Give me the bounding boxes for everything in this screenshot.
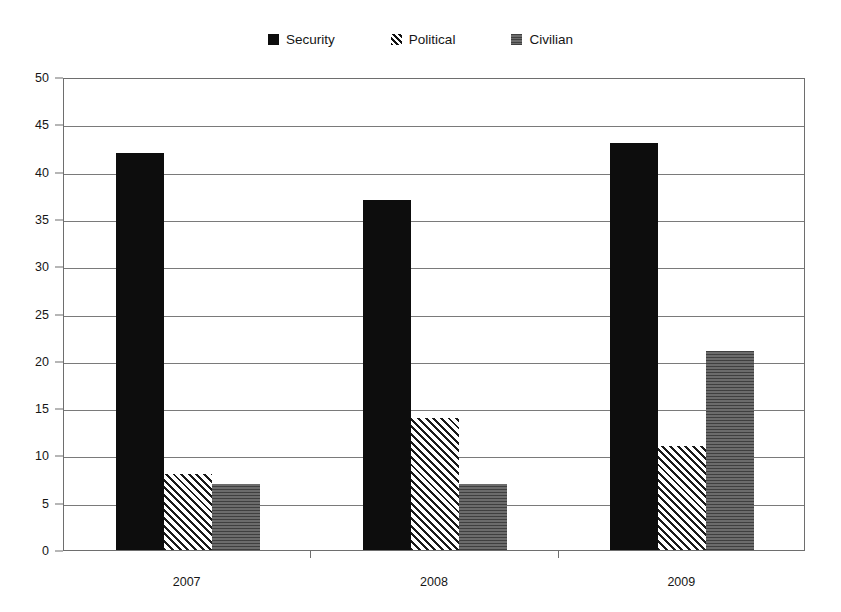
y-tick-mark <box>55 314 63 315</box>
x-tick-label-2007: 2007 <box>173 576 201 589</box>
bar-political-2007 <box>164 474 212 550</box>
y-axis: 05101520253035404550 <box>0 0 63 612</box>
y-tick-label: 40 <box>35 166 49 179</box>
y-tick-label: 35 <box>35 214 49 227</box>
bar-security-2009 <box>610 143 658 550</box>
y-tick-mark <box>55 219 63 220</box>
x-tick-label-2009: 2009 <box>667 576 695 589</box>
y-tick-mark <box>55 361 63 362</box>
legend-swatch-security-icon <box>268 34 279 45</box>
y-tick-label: 15 <box>35 403 49 416</box>
y-tick-mark <box>55 78 63 79</box>
y-tick-label: 30 <box>35 261 49 274</box>
y-tick-mark <box>55 551 63 552</box>
y-tick-mark <box>55 456 63 457</box>
y-tick-label: 20 <box>35 356 49 369</box>
legend-label-civilian: Civilian <box>529 33 573 47</box>
y-tick-mark <box>55 125 63 126</box>
y-tick-label: 5 <box>42 497 49 510</box>
legend-swatch-civilian-icon <box>511 34 522 45</box>
legend-item-security: Security <box>268 33 335 47</box>
bar-political-2009 <box>658 446 706 550</box>
bar-civilian-2007 <box>212 484 260 550</box>
x-axis: 200720082009 <box>63 551 805 601</box>
x-axis-separator <box>310 551 311 558</box>
legend-label-political: Political <box>409 33 456 47</box>
bar-civilian-2009 <box>706 351 754 550</box>
bar-security-2007 <box>116 153 164 550</box>
x-tick-label-2008: 2008 <box>420 576 448 589</box>
legend-item-civilian: Civilian <box>511 33 573 47</box>
y-tick-label: 50 <box>35 72 49 85</box>
y-tick-mark <box>55 172 63 173</box>
y-tick-mark <box>55 409 63 410</box>
plot-area <box>63 78 805 551</box>
chart-legend: Security Political Civilian <box>0 33 841 47</box>
y-tick-mark <box>55 267 63 268</box>
y-tick-label: 10 <box>35 450 49 463</box>
bar-security-2008 <box>363 200 411 550</box>
legend-item-political: Political <box>391 33 456 47</box>
x-axis-separator <box>558 551 559 558</box>
legend-label-security: Security <box>286 33 335 47</box>
bar-civilian-2008 <box>459 484 507 550</box>
y-tick-mark <box>55 503 63 504</box>
y-tick-label: 0 <box>42 545 49 558</box>
legend-swatch-political-icon <box>391 34 402 45</box>
y-tick-label: 25 <box>35 308 49 321</box>
y-tick-label: 45 <box>35 119 49 132</box>
bars-layer <box>64 79 804 550</box>
bar-political-2008 <box>411 418 459 550</box>
